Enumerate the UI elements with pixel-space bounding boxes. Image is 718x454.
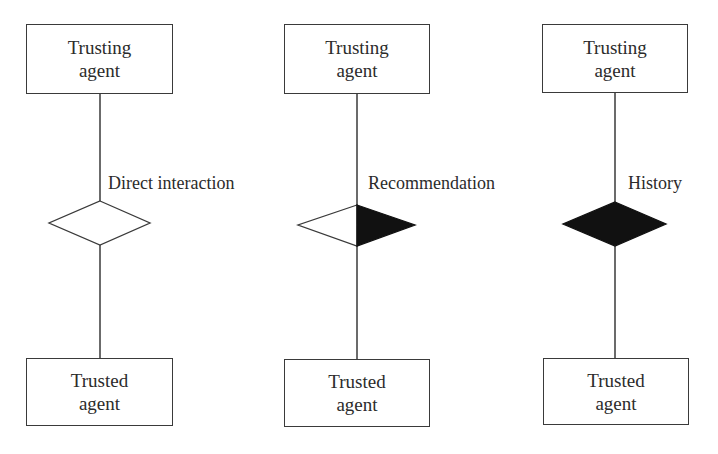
trusting-agent-box-recommendation: Trusting agent bbox=[284, 24, 430, 94]
filled-diamond-icon bbox=[563, 202, 666, 246]
recommendation-connector bbox=[298, 93, 415, 359]
direct-interaction-connector bbox=[49, 93, 150, 358]
box-label-line2: agent bbox=[594, 59, 635, 82]
recommendation-label: Recommendation bbox=[368, 173, 495, 193]
trusted-agent-box-direct: Trusted agent bbox=[26, 358, 173, 426]
trusting-agent-box-history: Trusting agent bbox=[542, 24, 688, 93]
box-label-line2: agent bbox=[336, 59, 377, 82]
box-label-line2: agent bbox=[79, 392, 120, 415]
box-label-line1: Trusting bbox=[583, 36, 647, 59]
trusted-agent-box-history: Trusted agent bbox=[543, 358, 689, 425]
box-label-line2: agent bbox=[336, 393, 377, 416]
history-connector bbox=[563, 92, 666, 358]
box-label-line1: Trusting bbox=[68, 36, 132, 59]
trusting-agent-box-direct: Trusting agent bbox=[26, 24, 173, 94]
empty-diamond-icon bbox=[49, 201, 150, 245]
trusted-agent-box-recommendation: Trusted agent bbox=[284, 359, 430, 427]
box-label-line1: Trusted bbox=[71, 369, 128, 392]
history-label: History bbox=[628, 173, 682, 193]
half-filled-diamond-icon bbox=[298, 205, 415, 246]
box-label-line1: Trusted bbox=[328, 370, 385, 393]
box-label-line2: agent bbox=[79, 59, 120, 82]
trust-relationship-diagram: Trusting agent Direct interaction Truste… bbox=[0, 0, 718, 454]
box-label-line1: Trusted bbox=[587, 369, 644, 392]
direct-interaction-label: Direct interaction bbox=[108, 173, 234, 193]
box-label-line1: Trusting bbox=[325, 36, 389, 59]
box-label-line2: agent bbox=[595, 392, 636, 415]
